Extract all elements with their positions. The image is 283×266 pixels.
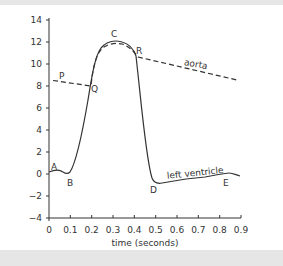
x-axis-title: time (seconds) (111, 238, 178, 248)
x-axis (49, 215, 241, 221)
y-tick: −4 (29, 213, 43, 223)
y-tick: 6 (36, 103, 42, 113)
y-tick: −2 (29, 191, 42, 201)
x-tick: 0 (46, 225, 52, 235)
y-tick-labels: 14 12 10 8 6 4 2 0 −2 −4 (29, 15, 43, 223)
y-tick: 4 (36, 125, 42, 135)
label-b: B (67, 178, 73, 188)
label-r: R (136, 46, 142, 56)
x-tick: 0.8 (213, 225, 228, 235)
y-tick: 8 (36, 81, 42, 91)
label-q: Q (91, 84, 98, 94)
x-tick: 0.1 (63, 225, 77, 235)
point-labels: A B C D E P Q R aorta left ventricle (51, 29, 229, 195)
x-tick: 0.2 (85, 225, 99, 235)
left-ventricle-line (49, 41, 240, 183)
label-d: D (150, 185, 157, 195)
x-tick: 0.4 (127, 225, 142, 235)
x-tick: 0.7 (191, 225, 205, 235)
pressure-chart: 14 12 10 8 6 4 2 0 −2 −4 0 0.1 0.2 0.3 0… (0, 0, 283, 266)
y-tick: 12 (31, 37, 42, 47)
y-tick: 2 (36, 147, 42, 157)
label-c: C (111, 29, 117, 39)
y-axis (46, 18, 49, 218)
label-aorta: aorta (183, 57, 208, 71)
aorta-line (53, 43, 237, 86)
y-tick: 0 (36, 169, 42, 179)
x-tick: 0.5 (149, 225, 163, 235)
x-tick: 0.9 (234, 225, 249, 235)
y-tick: 14 (31, 15, 43, 25)
x-tick: 0.3 (106, 225, 120, 235)
x-tick-labels: 0 0.1 0.2 0.3 0.4 0.5 0.6 0.7 0.8 0.9 (46, 225, 248, 235)
x-tick: 0.6 (170, 225, 185, 235)
label-a: A (51, 162, 58, 172)
label-p: P (59, 71, 65, 81)
y-tick: 10 (31, 59, 43, 69)
label-e: E (223, 178, 229, 188)
